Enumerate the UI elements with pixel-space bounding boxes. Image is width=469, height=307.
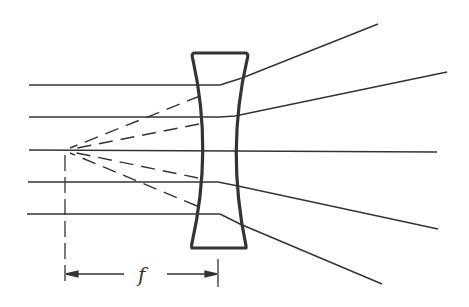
refracted-ray-4 [218, 182, 438, 229]
refracted-ray-2 [220, 72, 447, 117]
virtual-ray-1 [70, 96, 200, 148]
diverging-lens-diagram: f [0, 0, 469, 307]
arrowhead-right-icon [205, 271, 217, 277]
optical-axis-ray [29, 150, 437, 152]
virtual-ray-2 [72, 124, 199, 149]
focal-length-label: f [136, 263, 149, 287]
refracted-rays [218, 24, 447, 284]
arrowhead-left-icon [66, 271, 78, 277]
virtual-ray-4 [70, 153, 197, 206]
virtual-ray-3 [72, 152, 198, 178]
incoming-rays [27, 85, 437, 214]
